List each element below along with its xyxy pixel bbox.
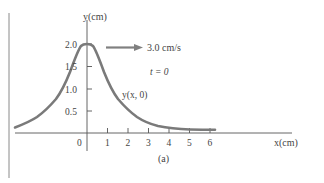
x-tick-label-3: 3 (146, 138, 151, 148)
y-tick-label-1.0: 1.0 (65, 85, 77, 95)
origin-label: 0 (77, 138, 82, 148)
x-tick-label-2: 2 (126, 138, 131, 148)
y-tick-label-2.0: 2.0 (65, 40, 77, 50)
x-tick-label-5: 5 (187, 138, 192, 148)
curve-label: y(x, 0) (122, 90, 147, 101)
time-label: t = 0 (150, 67, 169, 77)
velocity-arrow-icon (106, 44, 143, 51)
y-tick-label-1.5: 1.5 (65, 62, 77, 72)
velocity-label: 3.0 cm/s (147, 42, 181, 53)
figure: y(cm) 3.0 cm/s t = 0 y(x, 0) 2.0 1.5 1.0… (0, 0, 324, 183)
y-tick-label-0.5: 0.5 (65, 107, 77, 117)
y-ticks (87, 44, 92, 111)
panel-label: (a) (158, 153, 169, 165)
y-axis-label: y(cm) (83, 11, 107, 23)
x-tick-label-6: 6 (208, 138, 213, 148)
x-tick-label-1: 1 (105, 138, 110, 148)
chart-svg: y(cm) 3.0 cm/s t = 0 y(x, 0) 2.0 1.5 1.0… (0, 0, 324, 183)
x-axis-label: x(cm) (274, 137, 298, 149)
x-tick-label-4: 4 (167, 138, 172, 148)
pulse-curve (15, 44, 215, 130)
